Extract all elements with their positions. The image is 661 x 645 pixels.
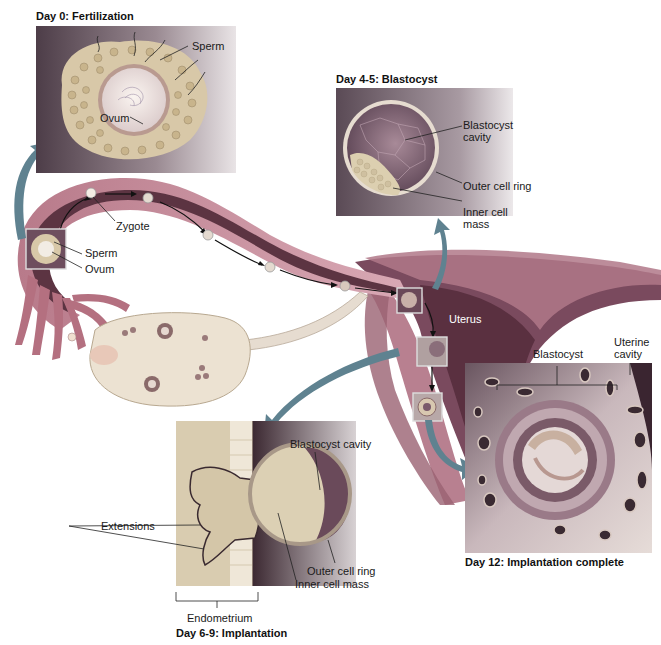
stage-title-implantation: Day 6-9: Implantation [176, 627, 287, 639]
ovarian-ligament [245, 292, 368, 350]
label-inner-cell-mass: Inner cell mass [463, 206, 508, 230]
diagram-canvas: Day 0: Fertilization Sperm Ovum Day 4-5:… [0, 0, 661, 645]
label-outer-cell-ring-implantation: Outer cell ring [307, 565, 375, 577]
label-outer-cell-ring: Outer cell ring [463, 180, 531, 192]
stage-title-implantation-complete: Day 12: Implantation complete [465, 556, 624, 568]
label-sperm-inset: Sperm [192, 40, 224, 52]
fertilization-mini-inset [26, 229, 66, 269]
label-ovum-inset: Ovum [100, 112, 129, 124]
label-uterine-cavity: Uterine cavity [614, 336, 649, 360]
label-blastocyst: Blastocyst [533, 348, 583, 360]
label-ovum: Ovum [85, 263, 114, 275]
ovary [68, 313, 250, 406]
illustration [0, 0, 661, 645]
label-blastocyst-cavity-implantation: Blastocyst cavity [290, 438, 371, 450]
stage-title-blastocyst: Day 4-5: Blastocyst [336, 73, 438, 85]
stage-title-fertilization: Day 0: Fertilization [36, 10, 134, 22]
label-sperm: Sperm [85, 247, 117, 259]
label-blastocyst-cavity: Blastocyst cavity [463, 119, 513, 143]
label-endometrium: Endometrium [187, 612, 252, 624]
label-zygote: Zygote [116, 220, 150, 232]
inset-implantation-complete [465, 363, 652, 553]
label-extensions: Extensions [101, 520, 155, 532]
inset-blastocyst [336, 88, 513, 216]
label-inner-cell-mass-implantation: Inner cell mass [295, 578, 369, 590]
label-uterus: Uterus [449, 313, 481, 325]
